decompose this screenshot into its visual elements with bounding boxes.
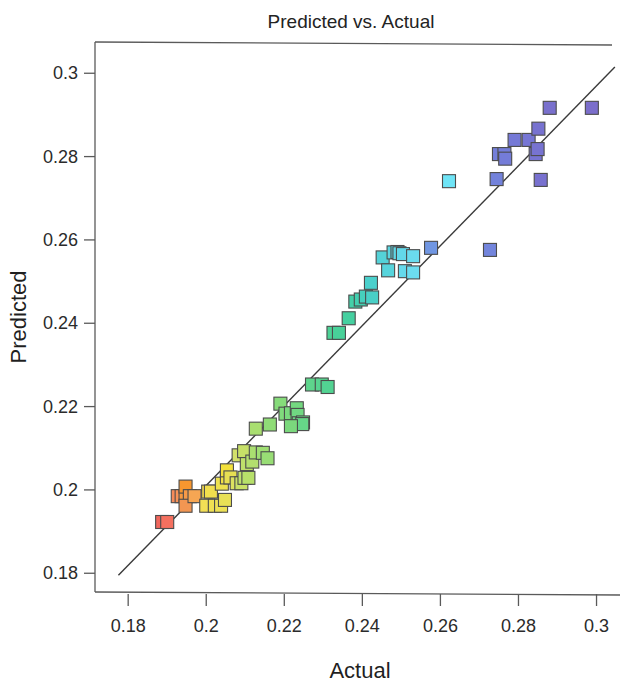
scatter-point bbox=[407, 250, 420, 263]
y-tick-label: 0.26 bbox=[43, 230, 78, 250]
y-tick-label: 0.22 bbox=[43, 397, 78, 417]
scatter-point bbox=[490, 173, 503, 186]
scatter-point bbox=[407, 266, 420, 279]
x-axis-line bbox=[95, 592, 620, 595]
x-tick-label: 0.28 bbox=[501, 616, 536, 636]
x-tick-label: 0.22 bbox=[267, 616, 302, 636]
x-tick-label: 0.2 bbox=[194, 616, 219, 636]
scatter-point bbox=[443, 175, 456, 188]
chart-title: Predicted vs. Actual bbox=[268, 11, 435, 32]
scatter-point bbox=[531, 143, 544, 156]
scatter-point bbox=[483, 243, 496, 256]
chart-container: Predicted vs. Actual 0.180.20.220.240.26… bbox=[0, 0, 621, 686]
y-tick-label: 0.3 bbox=[53, 63, 78, 83]
scatter-point bbox=[242, 471, 255, 484]
x-axis-ticks: 0.180.20.220.240.260.280.3 bbox=[111, 594, 609, 636]
scatter-point bbox=[321, 381, 334, 394]
scatter-point bbox=[543, 101, 556, 114]
predicted-vs-actual-scatter-plot: Predicted vs. Actual 0.180.20.220.240.26… bbox=[0, 0, 621, 686]
y-tick-label: 0.24 bbox=[43, 313, 78, 333]
x-tick-label: 0.26 bbox=[423, 616, 458, 636]
y-tick-label: 0.28 bbox=[43, 147, 78, 167]
scatter-point bbox=[332, 326, 345, 339]
scatter-point bbox=[508, 133, 521, 146]
scatter-markers bbox=[156, 101, 599, 528]
plot-top-border bbox=[95, 42, 612, 45]
scatter-point bbox=[425, 241, 438, 254]
scatter-point bbox=[261, 452, 274, 465]
y-tick-label: 0.2 bbox=[53, 480, 78, 500]
scatter-point bbox=[585, 101, 598, 114]
scatter-point bbox=[342, 312, 355, 325]
x-tick-label: 0.3 bbox=[584, 616, 609, 636]
scatter-point bbox=[218, 493, 231, 506]
scatter-point bbox=[249, 422, 262, 435]
scatter-point bbox=[364, 276, 377, 289]
scatter-point bbox=[499, 152, 512, 165]
y-axis-ticks: 0.180.20.220.240.260.280.3 bbox=[43, 63, 95, 583]
y-axis-title: Predicted bbox=[6, 271, 31, 364]
x-tick-label: 0.18 bbox=[111, 616, 146, 636]
scatter-point bbox=[161, 516, 174, 529]
scatter-point bbox=[534, 173, 547, 186]
scatter-point bbox=[284, 420, 297, 433]
scatter-point bbox=[188, 490, 201, 503]
scatter-point bbox=[366, 291, 379, 304]
x-axis-title: Actual bbox=[329, 658, 390, 683]
scatter-point bbox=[382, 264, 395, 277]
y-tick-label: 0.18 bbox=[43, 563, 78, 583]
scatter-point bbox=[263, 418, 276, 431]
x-tick-label: 0.24 bbox=[345, 616, 380, 636]
scatter-point bbox=[532, 122, 545, 135]
